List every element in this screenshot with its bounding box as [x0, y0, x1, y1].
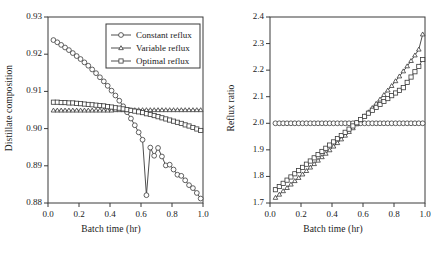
marker-square: [405, 80, 409, 84]
marker-circle: [132, 123, 137, 128]
marker-circle: [113, 93, 118, 98]
x-tick-label: 1.0: [185, 209, 221, 219]
y-axis-title-distillate: Distillate composition: [4, 15, 14, 201]
marker-triangle: [198, 108, 203, 112]
marker-circle: [148, 145, 153, 150]
marker-circle: [140, 137, 145, 142]
marker-triangle: [417, 47, 422, 51]
y-tick-label: 2.3: [226, 38, 264, 48]
marker-circle: [136, 130, 141, 135]
marker-circle: [98, 75, 103, 80]
y-tick-label: 2.0: [226, 117, 264, 127]
y-tick-label: 0.91: [4, 85, 42, 95]
x-axis-title-distillate: Batch time (hr): [0, 224, 222, 234]
series-line-triangle: [275, 34, 422, 197]
legend-label: Constant reflux: [136, 30, 192, 40]
y-tick-label: 0.90: [4, 123, 42, 133]
marker-square: [421, 57, 425, 61]
marker-triangle: [420, 32, 425, 36]
marker-circle: [198, 196, 203, 201]
marker-circle: [194, 191, 199, 196]
marker-circle: [167, 162, 172, 167]
marker-circle: [160, 154, 165, 159]
marker-square: [119, 59, 123, 63]
x-axis-title-reflux: Batch time (hr): [222, 224, 444, 234]
y-tick-label: 2.1: [226, 91, 264, 101]
y-tick-label: 0.93: [4, 11, 42, 21]
marker-square: [413, 70, 417, 74]
y-tick-label: 2.4: [226, 11, 264, 21]
y-tick-label: 0.88: [4, 197, 42, 207]
series-line-square: [53, 102, 200, 130]
chart-panel-distillate-composition: Constant refluxVariable refluxOptimal re…: [0, 0, 222, 255]
x-tick-label: 1.0: [407, 209, 443, 219]
marker-circle: [119, 33, 124, 38]
y-tick-label: 1.9: [226, 144, 264, 154]
legend-label: Variable reflux: [136, 43, 190, 53]
y-tick-label: 0.89: [4, 160, 42, 170]
marker-circle: [90, 67, 95, 72]
marker-circle: [156, 146, 161, 151]
marker-circle: [171, 167, 176, 172]
marker-circle: [183, 178, 188, 183]
marker-circle: [191, 186, 196, 191]
y-tick-label: 1.8: [226, 170, 264, 180]
marker-square: [409, 75, 413, 79]
marker-circle: [109, 88, 114, 93]
legend-label: Optimal reflux: [136, 56, 190, 66]
marker-circle: [179, 173, 184, 178]
marker-circle: [152, 153, 157, 158]
y-tick-label: 1.7: [226, 197, 264, 207]
y-tick-label: 2.2: [226, 64, 264, 74]
marker-circle: [105, 83, 110, 88]
marker-circle: [101, 79, 106, 84]
marker-square: [199, 128, 203, 132]
marker-circle: [117, 98, 122, 103]
marker-circle: [144, 193, 149, 198]
marker-circle: [94, 71, 99, 76]
y-tick-label: 0.92: [4, 48, 42, 58]
marker-square: [401, 86, 405, 90]
marker-circle: [129, 116, 134, 121]
chart-panel-reflux-ratio: Reflux ratio Batch time (hr) 1.71.81.92.…: [222, 0, 444, 255]
marker-square: [417, 64, 421, 68]
marker-circle: [86, 63, 91, 68]
marker-circle: [420, 121, 425, 126]
figure-container: Constant refluxVariable refluxOptimal re…: [0, 0, 444, 255]
